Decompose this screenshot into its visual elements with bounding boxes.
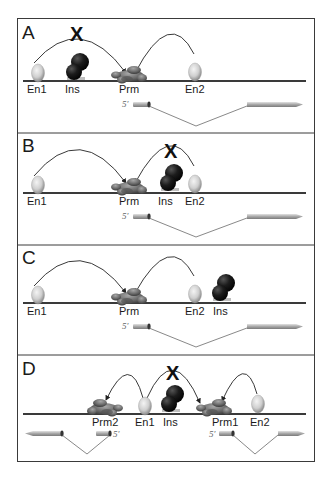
exon-2-arrow: [247, 102, 303, 107]
label-ins: Ins: [158, 195, 173, 207]
label-en1: En1: [27, 195, 47, 207]
enhancer-en1: [139, 397, 152, 415]
insulator-ins: [160, 164, 183, 191]
five-prime-label-left: 5′: [113, 429, 121, 439]
panel-b: B X En1 Prm Ins En2 5′: [22, 135, 306, 237]
label-ins: Ins: [163, 416, 178, 428]
panel-letter: A: [22, 22, 35, 43]
panel-d: D X Prm2 En1 Ins Prm1 En2 5′ 5′: [22, 358, 306, 454]
label-en2: En2: [185, 305, 205, 317]
label-en1: En1: [27, 83, 47, 95]
label-prm: Prm: [119, 195, 139, 207]
panel-letter: D: [22, 358, 36, 379]
enhancer-arc: [222, 374, 257, 401]
blocked-x-icon: X: [164, 140, 178, 162]
label-prm2: Prm2: [92, 416, 118, 428]
exon-1-right: [219, 431, 233, 436]
enhancer-en2: [189, 63, 202, 81]
enhancer-arc: [34, 150, 126, 183]
panel-c: C En1 Prm En2 Ins 5′: [22, 247, 306, 347]
enhancer-arc: [34, 261, 126, 293]
insulator-ins: [212, 274, 235, 301]
insulator-ins: [66, 53, 89, 80]
enhancer-arc: [135, 34, 194, 73]
intron-splice: [149, 106, 247, 126]
enhancer-en2: [189, 175, 202, 193]
exon-2-arrow-left: [25, 431, 62, 436]
exon-1: [133, 102, 149, 107]
figure-frame: [18, 19, 315, 462]
enhancer-arc: [135, 257, 194, 293]
enhancer-arc: [106, 374, 143, 400]
panel-letter: C: [22, 247, 36, 268]
label-en2: En2: [185, 83, 205, 95]
enhancer-en1: [32, 64, 45, 82]
insulator-ins: [161, 385, 184, 412]
label-prm1: Prm1: [212, 416, 238, 428]
intron-splice: [149, 218, 247, 237]
panel-letter: B: [22, 135, 35, 156]
label-en1: En1: [27, 305, 47, 317]
intron-splice: [62, 435, 110, 454]
five-prime-label-right: 5′: [209, 429, 217, 439]
five-prime-label: 5′: [122, 99, 130, 109]
label-en1: En1: [135, 416, 155, 428]
exon-1-left: [96, 431, 110, 436]
label-ins: Ins: [213, 305, 228, 317]
five-prime-label: 5′: [122, 211, 130, 221]
exon-2-arrow: [247, 214, 303, 219]
label-en2: En2: [250, 416, 270, 428]
intron-splice: [149, 328, 247, 347]
intron-splice: [233, 435, 278, 454]
exon-1: [133, 324, 149, 329]
label-en2: En2: [185, 195, 205, 207]
enhancer-en2: [189, 285, 202, 303]
enhancer-en1: [32, 176, 45, 194]
panel-a: A X En1 Ins Prm En2 5′: [22, 22, 306, 126]
exon-2-arrow: [247, 324, 303, 329]
exon-2-arrow-right: [278, 431, 305, 436]
five-prime-label: 5′: [122, 321, 130, 331]
enhancer-insulator-diagram: A X En1 Ins Prm En2 5′ B X En1 Prm Ins E…: [0, 0, 335, 479]
enhancer-en2: [252, 395, 265, 413]
label-prm: Prm: [119, 83, 139, 95]
blocked-x-icon: X: [70, 23, 84, 45]
label-prm: Prm: [119, 305, 139, 317]
blocked-x-icon: X: [166, 362, 180, 384]
label-ins: Ins: [65, 83, 80, 95]
enhancer-en1: [32, 286, 45, 304]
exon-1: [133, 214, 149, 219]
